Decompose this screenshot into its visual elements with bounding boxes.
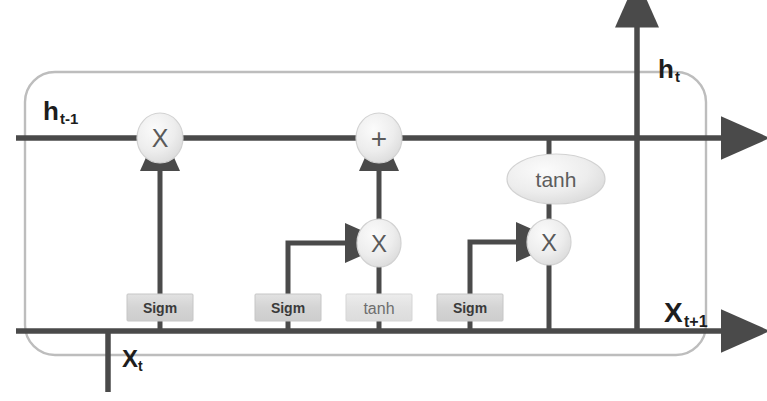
gate-forget-label: Sigm (143, 300, 177, 316)
lstm-diagram-root: Sigm Sigm tanh Sigm X + X X (0, 0, 767, 401)
output-multiply-symbol: X (541, 229, 557, 256)
operator-output-multiply[interactable]: X (527, 219, 571, 265)
activation-state-tanh[interactable]: tanh (507, 154, 605, 204)
gate-output[interactable]: Sigm (437, 294, 503, 321)
operator-input-multiply[interactable]: X (357, 219, 401, 267)
input-out-base: X (664, 297, 683, 328)
label-input-out: X t+1 (664, 297, 708, 330)
hidden-out-base: h (658, 54, 674, 84)
operator-forget-multiply[interactable]: X (137, 113, 183, 163)
label-input-in: X t (122, 345, 143, 374)
hidden-out-sub: t (675, 68, 680, 85)
gate-candidate-label: tanh (363, 300, 394, 317)
state-tanh-label: tanh (536, 168, 577, 191)
input-out-sub: t+1 (684, 313, 708, 330)
input-multiply-symbol: X (371, 230, 387, 257)
state-add-symbol: + (371, 123, 387, 154)
gate-forget[interactable]: Sigm (127, 294, 193, 321)
output-gate-elbow (470, 242, 521, 296)
label-hidden-in: h t-1 (43, 96, 78, 127)
operator-state-add[interactable]: + (356, 113, 402, 163)
hidden-in-sub: t-1 (60, 110, 78, 127)
gate-candidate[interactable]: tanh (346, 294, 412, 321)
gate-output-label: Sigm (453, 300, 487, 316)
hidden-in-base: h (43, 96, 59, 126)
gate-input-label: Sigm (271, 300, 305, 316)
label-hidden-out: h t (658, 54, 680, 85)
input-gate-elbow (288, 243, 350, 296)
lstm-cell-diagram: Sigm Sigm tanh Sigm X + X X (0, 0, 767, 401)
input-in-sub: t (138, 358, 143, 374)
gate-input[interactable]: Sigm (255, 294, 321, 321)
input-in-base: X (122, 345, 138, 372)
forget-multiply-symbol: X (152, 124, 169, 152)
